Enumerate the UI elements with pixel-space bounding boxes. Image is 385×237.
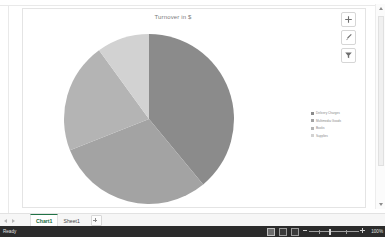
chevron-down-icon <box>379 203 383 206</box>
legend-swatch <box>311 112 314 115</box>
chevron-up-icon <box>379 7 383 10</box>
zoom-tick-right <box>346 230 347 234</box>
chart-elements-button[interactable] <box>341 12 356 27</box>
vertical-scrollbar-thumb[interactable] <box>378 16 384 166</box>
brush-icon <box>344 33 353 42</box>
plus-icon <box>344 15 353 24</box>
add-sheet-button[interactable] <box>91 215 102 226</box>
sheet-grid-line-top <box>0 5 385 6</box>
pie-chart-svg[interactable] <box>59 31 239 207</box>
legend-swatch <box>311 119 314 122</box>
view-page-break-button[interactable] <box>291 228 299 236</box>
zoom-in-button[interactable] <box>360 228 365 234</box>
chart-filters-button[interactable] <box>341 48 356 63</box>
legend-item[interactable]: Books <box>311 125 383 131</box>
sheet-nav-arrows <box>3 216 16 225</box>
legend-swatch <box>311 134 314 137</box>
status-message: Ready <box>3 226 16 237</box>
legend-swatch <box>311 127 314 130</box>
sheet-nav-first-button[interactable] <box>3 216 8 225</box>
vertical-scrollbar[interactable] <box>375 4 385 209</box>
chart-side-buttons <box>341 12 354 66</box>
pie-slices[interactable] <box>64 34 234 204</box>
zoom-slider-track <box>309 231 359 232</box>
legend-item[interactable]: Multimedia Goods <box>311 118 383 124</box>
funnel-icon <box>344 51 353 60</box>
zoom-slider-thumb[interactable] <box>329 229 331 235</box>
chart-sheet-page[interactable]: Turnover in $ Delivery ChargesMultimedia… <box>22 8 366 208</box>
zoom-tick-left <box>319 230 320 234</box>
legend-label: Delivery Charges <box>316 111 340 115</box>
zoom-slider[interactable] <box>303 228 365 236</box>
scroll-up-button[interactable] <box>376 4 385 13</box>
legend-label: Multimedia Goods <box>316 119 341 123</box>
legend-item[interactable]: Delivery Charges <box>311 110 383 116</box>
sheet-tab-bar: Chart1Sheet1 <box>0 213 385 227</box>
zoom-out-button[interactable] <box>303 230 307 231</box>
chart-styles-button[interactable] <box>341 30 356 45</box>
legend-label: Books <box>316 126 325 130</box>
legend-label: Supplies <box>316 134 328 138</box>
status-bar: Ready 100% <box>0 226 385 237</box>
chevron-left-icon <box>4 219 7 223</box>
view-page-layout-button[interactable] <box>279 228 287 236</box>
view-normal-button[interactable] <box>267 228 275 236</box>
chart-legend[interactable]: Delivery ChargesMultimedia GoodsBooksSup… <box>311 110 383 140</box>
excel-chart-window: Turnover in $ Delivery ChargesMultimedia… <box>0 0 385 237</box>
pie-plot-area[interactable] <box>59 31 239 207</box>
sheet-nav-last-button[interactable] <box>11 216 16 225</box>
sheet-grid-line-left <box>8 5 9 213</box>
legend-item[interactable]: Supplies <box>311 133 383 139</box>
scroll-down-button[interactable] <box>376 200 385 209</box>
workspace: Turnover in $ Delivery ChargesMultimedia… <box>0 0 385 213</box>
chevron-right-icon <box>12 219 15 223</box>
status-bar-right: 100% <box>267 226 383 237</box>
zoom-level-label[interactable]: 100% <box>369 229 383 234</box>
chart-title[interactable]: Turnover in $ <box>23 14 323 20</box>
